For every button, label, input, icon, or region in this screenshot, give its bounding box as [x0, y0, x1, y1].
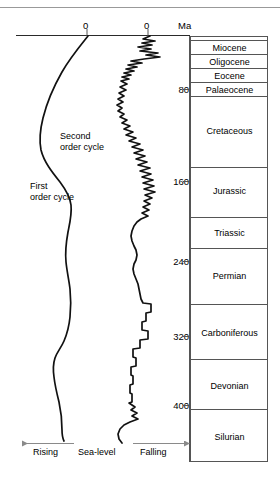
timescale-row-carboniferous	[191, 305, 268, 360]
timescale-row-cretaceous	[191, 97, 268, 168]
figure-vector-layer	[0, 0, 280, 477]
timescale-row-eocene	[191, 69, 268, 83]
first-order-cycle-curve	[40, 36, 88, 441]
timescale-row-permian	[191, 249, 268, 305]
timescale-row-triassic	[191, 218, 268, 249]
timescale-cap-row	[191, 37, 268, 41]
timescale-row-palaeocene	[191, 83, 268, 97]
second-order-cycle-curve	[117, 36, 160, 443]
sea-level-curve-figure: 0 0 Ma 80 160 240 320 400 Secondorder cy…	[0, 0, 280, 477]
timescale-row-jurassic	[191, 168, 268, 218]
timescale-row-silurian	[191, 410, 268, 462]
timescale-row-devonian	[191, 360, 268, 410]
timescale-row-miocene	[191, 41, 268, 55]
timescale-column	[191, 37, 268, 462]
timescale-axis-ticks	[183, 90, 190, 406]
timescale-row-oligocene	[191, 55, 268, 69]
